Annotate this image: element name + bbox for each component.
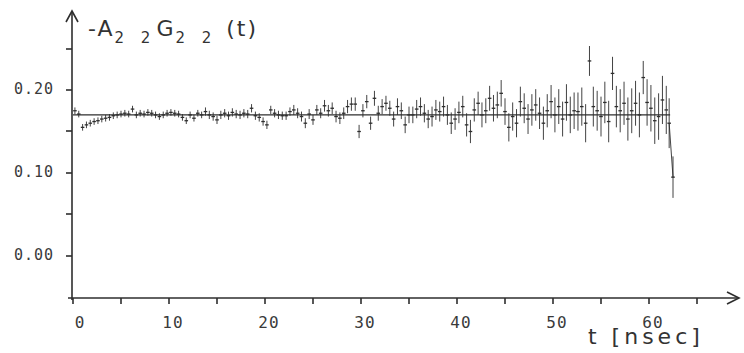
data-point	[472, 98, 476, 121]
data-point	[645, 79, 649, 125]
data-point	[576, 92, 580, 130]
data-point	[530, 94, 534, 126]
data-point	[77, 111, 81, 118]
data-point	[388, 101, 392, 116]
data-point	[453, 108, 457, 130]
y-tick-label-0.10: 0.10	[14, 163, 54, 181]
data-point	[392, 112, 396, 127]
data-point	[396, 98, 400, 115]
data-point	[588, 46, 592, 76]
data-point	[219, 111, 223, 119]
data-point	[653, 97, 657, 143]
data-point	[492, 95, 496, 122]
data-point	[85, 122, 89, 129]
data-point	[592, 87, 596, 127]
data-point	[196, 110, 200, 117]
data-point	[188, 112, 192, 119]
data-point	[469, 120, 473, 143]
data-point	[584, 104, 588, 142]
data-point	[104, 115, 108, 122]
data-point	[119, 111, 123, 118]
data-point	[131, 106, 135, 113]
data-point	[211, 112, 215, 120]
data-point	[200, 112, 204, 119]
x-tick-label-40: 40	[450, 313, 471, 332]
y-tick-label-0.00: 0.00	[14, 246, 54, 264]
data-point	[234, 110, 238, 118]
data-point	[192, 115, 196, 122]
data-point	[384, 96, 388, 111]
data-point	[542, 107, 546, 140]
data-point	[365, 95, 369, 108]
data-point	[319, 108, 323, 118]
data-point	[488, 86, 492, 111]
data-point	[246, 110, 250, 118]
data-point	[223, 109, 227, 117]
data-point	[426, 110, 430, 128]
data-point	[184, 117, 188, 124]
data-point	[296, 108, 300, 118]
x-tick-label-10: 10	[162, 313, 183, 332]
data-point	[499, 80, 503, 107]
data-point	[254, 112, 258, 120]
data-point	[476, 92, 480, 115]
data-point	[553, 97, 557, 132]
data-point	[419, 97, 423, 115]
data-point	[599, 97, 603, 137]
x-axis	[68, 292, 739, 304]
data-point	[115, 112, 119, 119]
data-point	[311, 115, 315, 125]
data-point	[407, 107, 411, 124]
data-point	[411, 107, 415, 124]
data-point	[549, 85, 553, 118]
data-point	[208, 111, 212, 119]
data-point	[438, 102, 442, 122]
data-point	[457, 102, 461, 124]
data-point	[269, 106, 273, 114]
data-point	[446, 105, 450, 125]
data-point	[400, 102, 404, 119]
data-point	[661, 76, 665, 124]
data-point	[73, 107, 77, 114]
data-point	[323, 100, 327, 112]
data-point	[403, 117, 407, 134]
y-axis	[66, 11, 78, 300]
data-point	[342, 107, 346, 119]
chart-title: -A2 2G2 2 (t)	[88, 16, 258, 47]
data-point	[580, 88, 584, 126]
data-point	[150, 110, 154, 117]
y-tick-label-0.20: 0.20	[14, 80, 54, 98]
data-point	[292, 105, 296, 115]
data-point	[158, 113, 162, 120]
x-tick-label-30: 30	[354, 313, 375, 332]
data-point	[507, 113, 511, 141]
data-point	[611, 57, 615, 90]
data-point	[307, 109, 311, 119]
data-point	[561, 102, 565, 137]
data-point	[622, 82, 626, 125]
plot-area	[0, 0, 744, 353]
data-point	[315, 105, 319, 115]
data-point	[138, 110, 142, 117]
data-point	[480, 102, 484, 127]
data-point	[127, 111, 131, 118]
data-point	[173, 110, 177, 117]
data-point	[568, 97, 572, 134]
data-point	[161, 112, 165, 119]
x-tick-label-50: 50	[546, 313, 567, 332]
data-point	[526, 104, 530, 134]
data-point	[615, 86, 619, 128]
data-point	[142, 111, 146, 118]
data-point	[638, 92, 642, 137]
data-point	[641, 61, 645, 94]
data-point	[442, 97, 446, 117]
data-point	[92, 118, 96, 125]
data-point	[123, 110, 127, 117]
data-point	[353, 97, 357, 110]
data-point	[607, 101, 611, 142]
data-points	[73, 46, 675, 198]
data-point	[557, 89, 561, 124]
data-point	[284, 112, 288, 120]
data-point	[96, 117, 100, 124]
data-point	[522, 93, 526, 123]
